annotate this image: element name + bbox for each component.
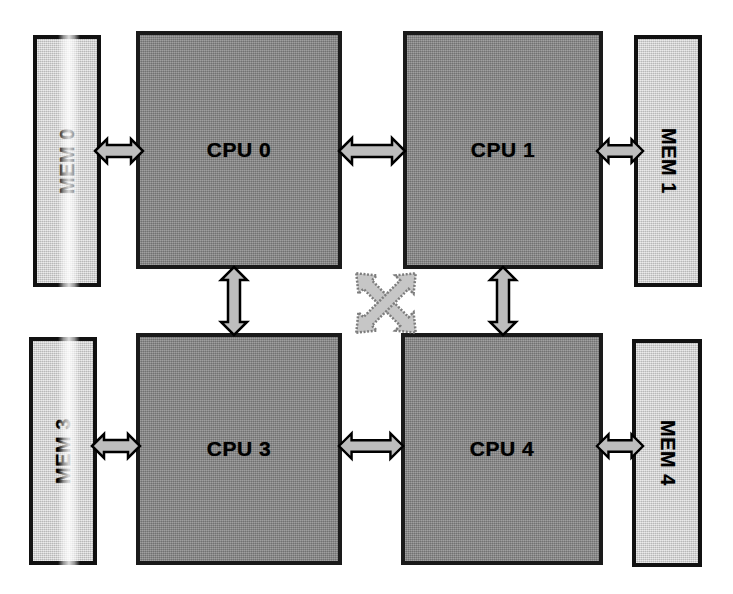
double-arrow-horizontal [339,138,405,164]
arrow-cpu4-mem4[interactable] [595,426,645,466]
double-arrow-vertical [221,267,247,335]
mem-block-label: MEM 3 [52,418,75,484]
cpu-block-cpu4[interactable]: CPU 4 [401,333,603,565]
mem-block-mem3[interactable]: MEM 3 [29,337,97,565]
double-arrow-horizontal [597,139,643,162]
arrow-mem3-cpu3[interactable] [89,426,143,466]
cpu-block-label: CPU 3 [140,437,338,461]
double-arrow-horizontal [95,139,143,163]
cpu-block-cpu3[interactable]: CPU 3 [136,333,342,565]
arrow-cpu1-mem1[interactable] [595,131,645,171]
double-arrow-horizontal [92,434,140,458]
mem-block-label: MEM 0 [56,128,79,194]
cpu-block-label: CPU 1 [407,138,599,162]
cpu-block-cpu1[interactable]: CPU 1 [403,31,603,269]
double-arrow-horizontal [597,434,643,457]
mem-block-label: MEM 1 [657,128,680,194]
cpu-block-label: CPU 0 [140,138,338,162]
arrow-cpu3-cpu4[interactable] [337,426,405,466]
double-arrow-horizontal [339,433,403,458]
arrow-cpu0-cpu1[interactable] [337,131,407,171]
arrow-cpu1-cpu4[interactable] [482,265,524,337]
double-arrow-diagonal [347,264,425,342]
arrow-cpu1-cpu3-diagonal[interactable] [340,265,432,341]
arrow-cpu0-cpu3[interactable] [213,265,255,337]
double-arrow-vertical [490,267,516,335]
mem-block-label: MEM 4 [656,420,679,486]
cpu-block-label: CPU 4 [405,437,599,461]
mem-block-mem0[interactable]: MEM 0 [33,35,101,287]
diagram-canvas: MEM 0 MEM 1 MEM 3 MEM 4 CPU 0 CPU 1 CPU … [0,0,733,594]
arrow-mem0-cpu0[interactable] [93,131,145,171]
cpu-block-cpu0[interactable]: CPU 0 [136,31,342,269]
